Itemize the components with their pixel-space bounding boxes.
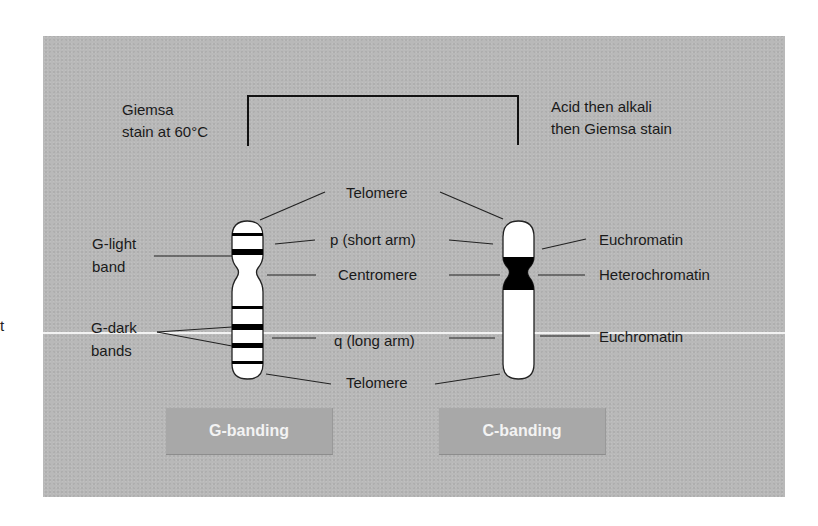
c-banded-chromosome: [503, 221, 534, 379]
label-p-short-arm: p (short arm): [330, 230, 416, 250]
label-telomere-bottom: Telomere: [346, 373, 408, 393]
g-banded-chromosome: [232, 221, 263, 379]
label-telomere-top: Telomere: [346, 183, 408, 203]
c-method-caption-line1: Acid then alkali: [551, 97, 652, 117]
label-q-long-arm: q (long arm): [334, 331, 415, 351]
g-banding-button[interactable]: G-banding: [166, 408, 333, 455]
label-g-light-line2: band: [92, 257, 125, 277]
c-method-caption-line2: then Giemsa stain: [551, 119, 672, 139]
bracket: [248, 96, 518, 146]
label-euchromatin-top: Euchromatin: [599, 230, 683, 250]
label-euchromatin-bottom: Euchromatin: [599, 327, 683, 347]
c-banding-button[interactable]: C-banding: [439, 408, 606, 455]
label-g-dark-line1: G-dark: [91, 318, 137, 338]
label-g-dark-line2: bands: [91, 341, 132, 361]
label-centromere: Centromere: [338, 265, 417, 285]
label-g-light-line1: G-light: [92, 234, 136, 254]
g-method-caption-line2: stain at 60°C: [122, 122, 208, 142]
label-heterochromatin: Heterochromatin: [599, 265, 710, 285]
g-method-caption-line1: Giemsa: [122, 100, 174, 120]
